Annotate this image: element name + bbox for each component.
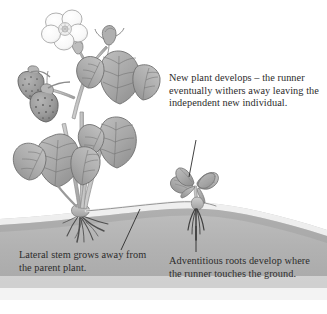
leader-line-new-plant	[189, 140, 196, 177]
trifoliate-leaf-upper-right	[77, 51, 160, 104]
caption-lateral-stem: Lateral stem grows away from the parent …	[19, 249, 161, 274]
caption-new-plant: New plant develops – the runner eventual…	[169, 72, 319, 110]
botanical-diagram-figure: New plant develops – the runner eventual…	[0, 0, 327, 314]
caption-adventitious-roots: Adventitious roots develop where the run…	[169, 255, 319, 280]
